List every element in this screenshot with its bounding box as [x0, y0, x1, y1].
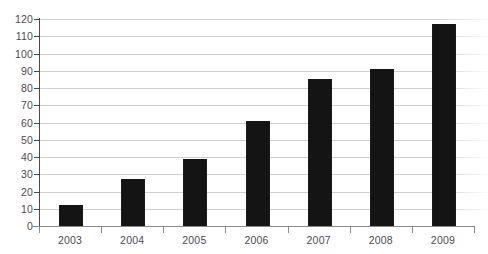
- x-axis-tick-label: 2008: [369, 234, 393, 246]
- x-axis-tick-label: 2006: [244, 234, 268, 246]
- y-axis-tick-label: 80: [0, 82, 33, 94]
- y-axis-tick-label: 20: [0, 186, 33, 198]
- y-axis-tick-label: 10: [0, 203, 33, 215]
- bar: [370, 69, 394, 226]
- bars-group: [39, 0, 488, 254]
- y-axis-tick-label: 60: [0, 117, 33, 129]
- y-axis-tick-label: 90: [0, 65, 33, 77]
- bar: [59, 205, 83, 226]
- y-axis-labels: 0102030405060708090100110120: [0, 0, 33, 254]
- y-axis-tick-label: 120: [0, 13, 33, 25]
- x-axis-tick-label: 2007: [307, 234, 331, 246]
- bar: [432, 24, 456, 226]
- y-axis-tick-label: 40: [0, 151, 33, 163]
- x-axis-labels: 2003200420052006200720082009: [39, 234, 488, 254]
- bar: [246, 121, 270, 226]
- y-axis-tick-label: 100: [0, 48, 33, 60]
- x-axis-tick-label: 2009: [431, 234, 455, 246]
- bar: [183, 159, 207, 226]
- bar: [308, 79, 332, 226]
- y-axis-tick-label: 30: [0, 168, 33, 180]
- y-axis-tick-label: 0: [0, 220, 33, 232]
- x-axis-tick-label: 2003: [58, 234, 82, 246]
- x-axis-tick-label: 2004: [120, 234, 144, 246]
- y-axis-tick-label: 50: [0, 134, 33, 146]
- x-axis-tick-label: 2005: [182, 234, 206, 246]
- bar-chart: 0102030405060708090100110120 20032004200…: [0, 0, 488, 254]
- y-axis-tick-label: 110: [0, 30, 33, 42]
- bar: [121, 179, 145, 226]
- y-axis-tick-label: 70: [0, 99, 33, 111]
